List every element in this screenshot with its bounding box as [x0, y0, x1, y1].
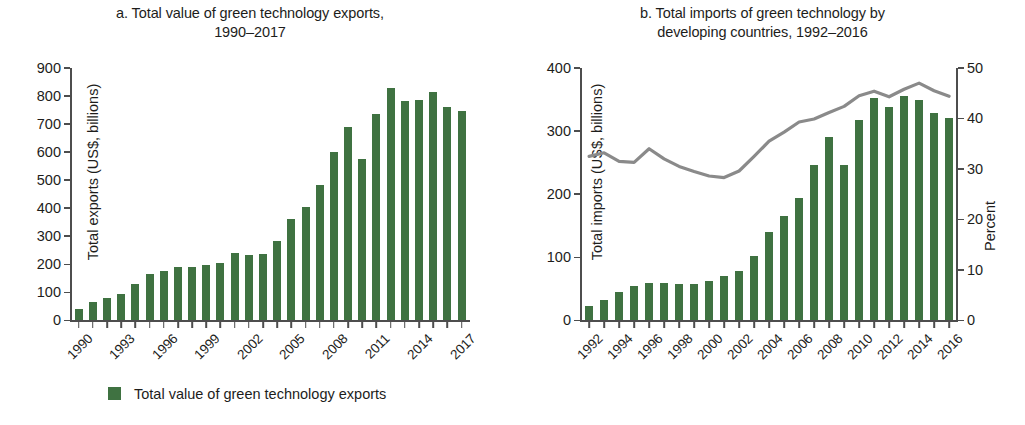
x-tick-label: 2000: [694, 331, 725, 362]
bar: [750, 256, 758, 320]
bar: [945, 118, 953, 321]
x-tick-label: 2005: [277, 331, 308, 362]
y-tick-label: 200: [547, 186, 571, 202]
x-tick-mark: [447, 322, 449, 328]
x-tick-label: 1996: [149, 331, 180, 362]
bar: [885, 107, 893, 321]
x-tick-label: 2006: [784, 331, 815, 362]
x-tick-mark: [783, 322, 785, 328]
bar: [443, 107, 451, 321]
x-tick-label: 2004: [754, 331, 785, 362]
x-tick-mark: [768, 322, 770, 328]
x-tick-mark: [903, 322, 905, 328]
x-tick-mark: [262, 322, 264, 328]
x-tick-mark: [347, 322, 349, 328]
bar: [160, 271, 168, 321]
y-tick-mark: [64, 320, 70, 322]
panel-b-plot-area: Total imports (US$, billions) Percent 01…: [580, 68, 958, 322]
bar: [705, 281, 713, 320]
y-tick-mark: [958, 219, 964, 221]
panel-b-y-axis-left: [580, 68, 582, 322]
x-tick-mark: [723, 322, 725, 328]
x-tick-label: 2008: [319, 331, 350, 362]
bar: [174, 267, 182, 320]
x-tick-mark: [603, 322, 605, 328]
bar: [89, 302, 97, 320]
x-tick-mark: [948, 322, 950, 328]
panel-b-title: b. Total imports of green technology by …: [500, 4, 1025, 42]
bar: [103, 298, 111, 320]
y-tick-label: 300: [37, 228, 61, 244]
x-tick-mark: [92, 322, 94, 328]
x-tick-label: 1996: [634, 331, 665, 362]
figure-container: a. Total value of green technology expor…: [0, 0, 1025, 425]
x-tick-mark: [888, 322, 890, 328]
x-tick-mark: [633, 322, 635, 328]
x-tick-label: 1999: [192, 331, 223, 362]
x-tick-mark: [177, 322, 179, 328]
x-tick-mark: [828, 322, 830, 328]
x-tick-label: 2016: [934, 331, 965, 362]
y-tick-mark: [64, 207, 70, 209]
bar: [302, 207, 310, 321]
bar: [840, 165, 848, 320]
bar: [401, 101, 409, 320]
x-tick-label: 2017: [447, 331, 478, 362]
panel-a-x-axis: [70, 320, 470, 322]
x-tick-mark: [205, 322, 207, 328]
x-tick-mark: [843, 322, 845, 328]
x-tick-mark: [663, 322, 665, 328]
panel-a-y-axis-title: Total exports (US$, billions): [85, 67, 101, 277]
x-tick-mark: [276, 322, 278, 328]
bar: [188, 267, 196, 321]
bar: [870, 98, 878, 320]
y-tick-label: 500: [37, 172, 61, 188]
x-tick-label: 2010: [844, 331, 875, 362]
x-tick-mark: [135, 322, 137, 328]
x-tick-mark: [873, 322, 875, 328]
x-tick-mark: [588, 322, 590, 328]
x-tick-mark: [163, 322, 165, 328]
y-tick-mark: [64, 235, 70, 237]
x-tick-mark: [918, 322, 920, 328]
x-tick-label: 1993: [107, 331, 138, 362]
y-tick-mark: [64, 95, 70, 97]
x-tick-mark: [106, 322, 108, 328]
y-tick-label: 400: [547, 60, 571, 76]
y-tick-mark: [958, 168, 964, 170]
panel-a-title-line1: a. Total value of green technology expor…: [0, 4, 500, 23]
x-tick-mark: [191, 322, 193, 328]
x-tick-label: 2002: [724, 331, 755, 362]
x-tick-mark: [376, 322, 378, 328]
bar: [780, 216, 788, 321]
x-tick-mark: [305, 322, 307, 328]
x-tick-mark: [858, 322, 860, 328]
panel-b-y-axis-right: [956, 68, 958, 322]
x-tick-mark: [418, 322, 420, 328]
panel-b-title-line2: developing countries, 1992–2016: [500, 23, 1025, 42]
y-tick-mark: [64, 67, 70, 69]
bar: [245, 255, 253, 320]
y-tick-label: 40: [967, 110, 983, 126]
y-tick-mark: [574, 193, 580, 195]
bar: [429, 92, 437, 321]
x-tick-mark: [291, 322, 293, 328]
x-tick-mark: [248, 322, 250, 328]
bar: [900, 96, 908, 321]
y-tick-label: 20: [967, 211, 983, 227]
panel-a-title-line2: 1990–2017: [0, 23, 500, 42]
bar: [330, 152, 338, 321]
x-tick-mark: [738, 322, 740, 328]
panel-b-title-line1: b. Total imports of green technology by: [500, 4, 1025, 23]
bar: [675, 284, 683, 321]
x-tick-mark: [798, 322, 800, 328]
y-tick-label: 600: [37, 144, 61, 160]
x-tick-mark: [361, 322, 363, 328]
bar: [131, 284, 139, 320]
bar: [765, 232, 773, 320]
x-tick-mark: [933, 322, 935, 328]
bar: [387, 88, 395, 320]
x-tick-mark: [404, 322, 406, 328]
bar: [358, 159, 366, 321]
bar: [372, 114, 380, 321]
